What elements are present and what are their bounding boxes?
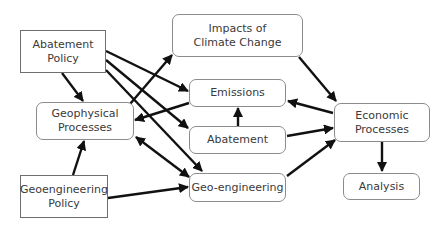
- edge-economic-to-emissions: [288, 101, 333, 113]
- diagram-canvas: Abatement Policy Impacts of Climate Chan…: [0, 0, 446, 230]
- edge-impacts-to-economic: [299, 57, 336, 101]
- node-geoengineering-policy-label: Geoengineering Policy: [20, 183, 108, 211]
- node-impacts-label: Impacts of Climate Change: [194, 22, 282, 50]
- node-abatement-policy-label: Abatement Policy: [32, 38, 93, 66]
- node-abatement: Abatement: [189, 126, 286, 154]
- node-economic-processes: Economic Processes: [334, 103, 430, 142]
- node-analysis-label: Analysis: [359, 180, 404, 194]
- node-abatement-label: Abatement: [207, 133, 268, 147]
- edge-geoengineering-policy-to-geoengineering: [108, 187, 188, 198]
- node-geophysical-label: Geophysical Processes: [51, 107, 118, 135]
- edge-geoengineering-policy-to-geophysical: [73, 141, 84, 175]
- node-economic-label: Economic Processes: [355, 109, 409, 137]
- edge-geoengineering-to-economic: [287, 140, 335, 176]
- node-impacts-of-climate-change: Impacts of Climate Change: [172, 14, 303, 57]
- node-emissions-label: Emissions: [210, 86, 265, 100]
- node-analysis: Analysis: [343, 173, 420, 200]
- edge-geophysical-geoengineering-bidirectional: [136, 137, 189, 177]
- node-geo-engineering: Geo-engineering: [189, 173, 286, 202]
- node-abatement-policy: Abatement Policy: [20, 30, 106, 73]
- node-emissions: Emissions: [189, 79, 286, 107]
- node-geo-engineering-label: Geo-engineering: [191, 181, 283, 195]
- edge-abatement-to-economic: [287, 128, 333, 136]
- edge-abatement-policy-to-geophysical: [62, 73, 83, 101]
- node-geoengineering-policy: Geoengineering Policy: [20, 175, 108, 218]
- node-geophysical-processes: Geophysical Processes: [36, 102, 134, 140]
